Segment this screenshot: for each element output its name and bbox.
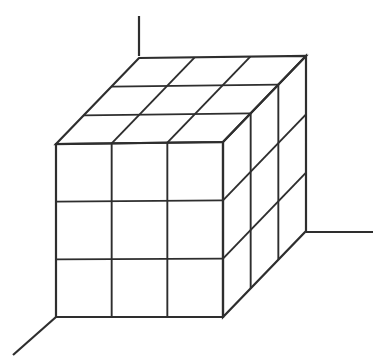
front-face-horizontal-line-1 — [56, 200, 223, 201]
figure-canvas — [0, 0, 391, 360]
front-face-outline — [56, 142, 223, 317]
right-face-height-line-2 — [223, 173, 306, 259]
top-face-depth-line-1 — [84, 113, 251, 115]
top-face — [56, 56, 306, 144]
top-face-depth-line-2 — [111, 85, 278, 87]
axis-lines — [13, 16, 373, 355]
right-face — [223, 56, 306, 317]
cube-diagram — [0, 0, 391, 360]
top-face-outline — [56, 56, 306, 144]
diagonal-axis-line — [13, 317, 56, 355]
front-face-horizontal-line-2 — [56, 259, 223, 260]
top-face-width-line-1 — [112, 57, 195, 143]
front-face — [56, 142, 223, 317]
top-face-width-line-2 — [167, 57, 250, 143]
right-face-height-line-1 — [223, 114, 306, 200]
